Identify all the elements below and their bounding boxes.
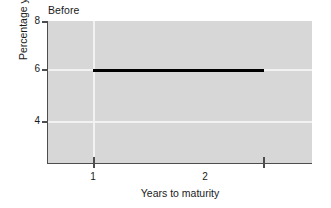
- x-tick-label-1: 1: [90, 171, 96, 182]
- y-tick-label-4: 4: [34, 116, 40, 126]
- y-tick-label-6: 6: [34, 64, 40, 74]
- gridline-vertical-1: [93, 21, 95, 163]
- y-axis-title: Percentage yield: [16, 0, 30, 92]
- plot-area: [48, 21, 312, 163]
- y-tick-label-8: 8: [34, 16, 40, 26]
- y-tick-mark-4: [42, 121, 48, 123]
- chart-figure: Before 8 6 4 1 2 Percentage yield Years …: [0, 0, 331, 208]
- series-line-yield-curve: [93, 69, 264, 72]
- y-tick-mark-8: [42, 21, 48, 23]
- y-axis-line: [47, 21, 48, 164]
- x-axis-line: [47, 163, 312, 164]
- x-axis-title: Years to maturity: [48, 187, 312, 200]
- gridline-horizontal-4: [48, 121, 312, 123]
- x-tick-label-2: 2: [202, 171, 208, 182]
- y-tick-mark-6: [42, 69, 48, 71]
- x-tick-mark-1: [93, 157, 95, 168]
- chart-title: Before: [48, 4, 80, 17]
- x-tick-mark-right: [263, 157, 265, 168]
